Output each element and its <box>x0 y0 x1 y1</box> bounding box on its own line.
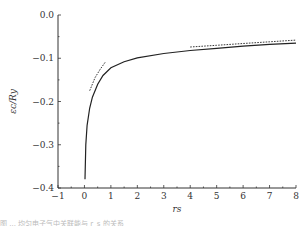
solid-curve <box>85 43 296 179</box>
y-tick-label: −0.2 <box>32 97 54 107</box>
y-tick-label: −0.4 <box>32 183 54 193</box>
x-tick-label: 4 <box>187 191 193 201</box>
figure-caption: 图 ... 均匀电子气中关联能与 r_s 的关系 <box>0 218 305 226</box>
plot-series <box>85 40 296 179</box>
axis-labels: −10123456780.0−0.1−0.2−0.3−0.4rsεc/Ry <box>8 10 299 214</box>
x-tick-label: 7 <box>267 191 273 201</box>
axes <box>58 15 296 188</box>
y-tick-label: −0.3 <box>32 140 54 150</box>
chart: −10123456780.0−0.1−0.2−0.3−0.4rsεc/Ry <box>0 0 305 226</box>
y-tick-label: 0.0 <box>40 10 55 20</box>
x-tick-label: 2 <box>134 191 140 201</box>
x-axis-label: rs <box>173 204 182 214</box>
x-tick-label: 8 <box>293 191 299 201</box>
x-tick-label: 6 <box>240 191 246 201</box>
y-tick-label: −0.1 <box>32 53 54 63</box>
x-tick-label: 1 <box>108 191 114 201</box>
x-tick-label: 5 <box>214 191 220 201</box>
x-tick-label: 0 <box>82 191 88 201</box>
x-tick-label: 3 <box>161 191 167 201</box>
y-axis-label: εc/Ry <box>8 88 18 114</box>
